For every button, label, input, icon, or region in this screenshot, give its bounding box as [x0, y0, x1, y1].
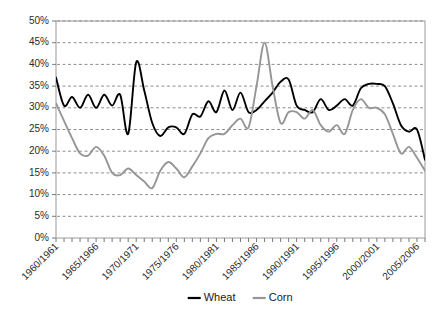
chart-legend: WheatCorn — [188, 291, 293, 303]
y-axis-tick-label: 20% — [29, 145, 49, 156]
y-axis-ticks — [52, 21, 56, 238]
x-axis-tick-label: 2005/2006 — [380, 240, 422, 282]
x-axis-tick-label: 1995/1996 — [300, 240, 342, 282]
y-axis-tick-label: 15% — [29, 167, 49, 178]
x-axis-tick-label: 1980/1981 — [180, 240, 222, 282]
y-axis-tick-label: 45% — [29, 36, 49, 47]
y-axis-tick-label: 25% — [29, 123, 49, 134]
x-axis-tick-label: 1965/1966 — [59, 240, 101, 282]
y-axis-tick-label: 35% — [29, 80, 49, 91]
x-axis-ticks — [56, 238, 425, 242]
y-axis-tick-label: 10% — [29, 188, 49, 199]
legend-label-corn: Corn — [269, 291, 293, 303]
y-axis-tick-label: 30% — [29, 101, 49, 112]
y-axis-tick-label: 5% — [35, 210, 50, 221]
x-axis-tick-label: 2000/2001 — [340, 240, 382, 282]
x-axis-tick-labels: 1960/19611965/19661970/19711975/19761980… — [19, 240, 421, 282]
y-axis-tick-label: 40% — [29, 58, 49, 69]
x-axis-tick-label: 1985/1986 — [220, 240, 262, 282]
legend-label-wheat: Wheat — [204, 291, 236, 303]
x-axis-tick-label: 1975/1976 — [140, 240, 182, 282]
y-axis-tick-labels: 0%5%10%15%20%25%30%35%40%45%50% — [29, 15, 49, 243]
line-chart: 0%5%10%15%20%25%30%35%40%45%50% 1960/196… — [0, 0, 445, 329]
x-axis-tick-label: 1960/1961 — [19, 240, 61, 282]
x-axis-tick-label: 1970/1971 — [99, 240, 141, 282]
y-axis-tick-label: 0% — [35, 232, 50, 243]
chart-container: 0%5%10%15%20%25%30%35%40%45%50% 1960/196… — [0, 0, 445, 329]
x-axis-tick-label: 1990/1991 — [260, 240, 302, 282]
y-axis-tick-label: 50% — [29, 15, 49, 26]
